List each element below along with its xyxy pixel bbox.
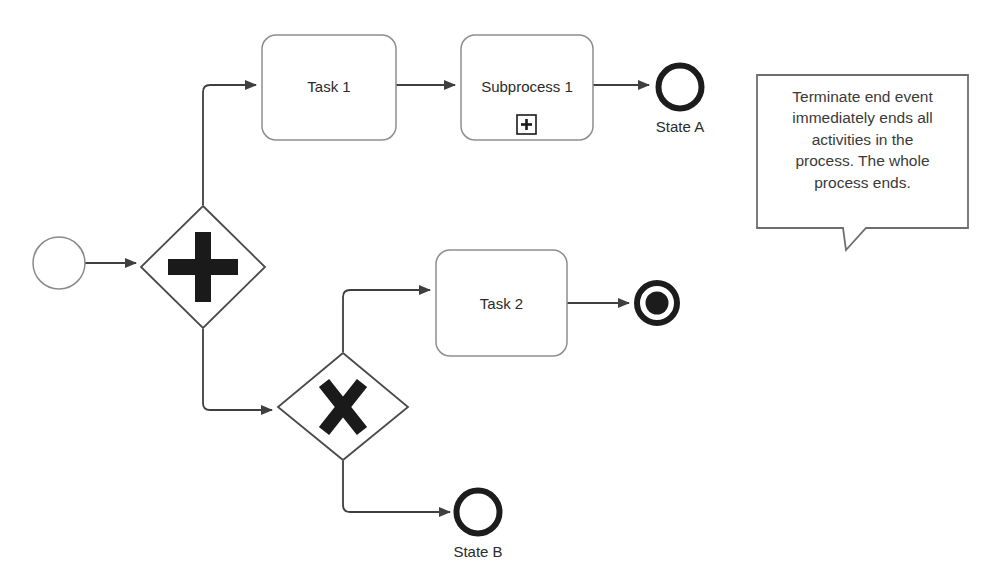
annotation-line-5: process ends. [766, 172, 959, 193]
exclusive-gateway-shape[interactable] [278, 353, 408, 460]
start-event-circle[interactable] [33, 237, 85, 289]
annotation-line-3: activities in the [766, 129, 959, 150]
end-event-state-a-label: State A [630, 118, 730, 135]
annotation-line-1: Terminate end event [766, 86, 959, 107]
annotation-line-4: process. The whole [766, 150, 959, 171]
terminate-end-event-shape[interactable] [637, 283, 677, 323]
end-event-state-b-circle[interactable] [457, 491, 500, 534]
end-event-state-b-label: State B [428, 543, 528, 560]
flow-exclusive-gateway-to-task-2 [343, 290, 430, 352]
end-event-state-a-circle[interactable] [659, 66, 702, 109]
annotation-line-2: immediately ends all [766, 107, 959, 128]
flow-parallel-gateway-to-exclusive-gateway [203, 329, 272, 410]
expand-marker-icon[interactable] [517, 115, 536, 134]
flow-exclusive-gateway-to-state-b [343, 461, 450, 512]
subprocess-1-shape[interactable] [461, 35, 593, 140]
flow-parallel-gateway-to-task-1 [203, 85, 256, 205]
bpmn-diagram-canvas: Task 1 Subprocess 1 Task 2 State A State… [0, 0, 997, 586]
annotation-callout-text: Terminate end event immediately ends all… [766, 86, 959, 193]
parallel-gateway-shape[interactable] [141, 206, 265, 328]
terminate-inner-disc [646, 292, 669, 315]
task-2-shape[interactable] [436, 250, 567, 356]
task-1-shape[interactable] [262, 35, 396, 140]
